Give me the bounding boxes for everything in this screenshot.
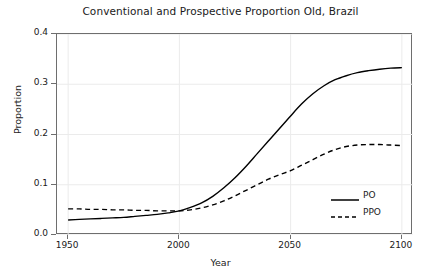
legend-line-swatch	[330, 190, 360, 200]
x-axis-label: Year	[0, 257, 441, 268]
x-tick-label: 2000	[155, 240, 201, 250]
y-tick-label: 0.0	[20, 228, 48, 238]
legend-label: PO	[363, 190, 376, 200]
chart-figure: Conventional and Prospective Proportion …	[0, 0, 441, 275]
chart-title: Conventional and Prospective Proportion …	[0, 5, 441, 17]
x-tick-label: 2050	[267, 240, 313, 250]
x-tick-label: 1950	[44, 240, 90, 250]
y-axis-label: Proportion	[12, 60, 23, 160]
legend-line-swatch	[330, 207, 360, 217]
y-tick-label: 0.2	[20, 128, 48, 138]
legend-item-po: PO	[330, 186, 408, 203]
y-tick-label: 0.4	[20, 27, 48, 37]
chart-legend: POPPO	[330, 186, 408, 220]
x-tick-label: 2100	[378, 240, 424, 250]
legend-item-ppo: PPO	[330, 203, 408, 220]
y-tick-mark	[51, 234, 56, 235]
legend-label: PPO	[363, 207, 381, 217]
y-tick-label: 0.1	[20, 178, 48, 188]
y-tick-label: 0.3	[20, 77, 48, 87]
